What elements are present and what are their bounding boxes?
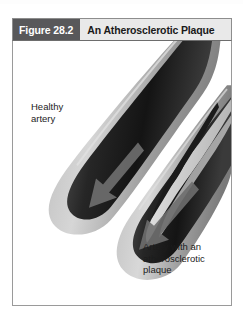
scan-top-edge bbox=[0, 0, 243, 4]
figure-header: Figure 28.2 An Atherosclerotic Plaque bbox=[12, 18, 232, 41]
atherosclerotic-artery-label: Artery with an atherosclerotic plaque bbox=[143, 241, 205, 276]
figure-box: Figure 28.2 An Atherosclerotic Plaque bbox=[12, 18, 232, 306]
figure-number-label: Figure 28.2 bbox=[13, 19, 80, 40]
figure-illustration-panel: Healthy artery Artery with an atheroscle… bbox=[12, 41, 232, 306]
healthy-artery-label: Healthy artery bbox=[31, 101, 63, 124]
page-canvas: Figure 28.2 An Atherosclerotic Plaque bbox=[0, 0, 243, 326]
figure-title-container: An Atherosclerotic Plaque bbox=[80, 19, 231, 40]
figure-title: An Atherosclerotic Plaque bbox=[87, 24, 214, 36]
